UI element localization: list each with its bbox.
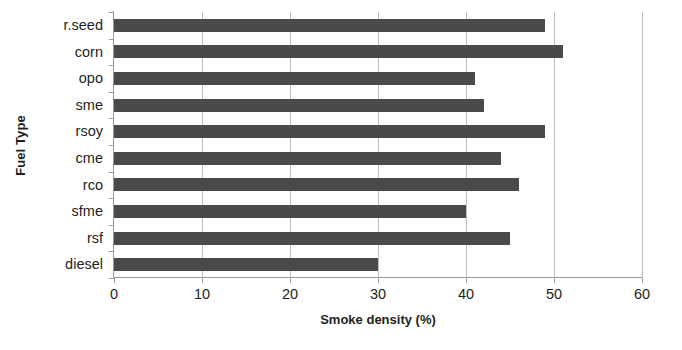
x-axis-tick: [290, 278, 291, 283]
x-axis-tick: [642, 278, 643, 283]
x-tick-label: 10: [194, 286, 210, 302]
bar: [114, 45, 563, 58]
bar: [114, 125, 545, 138]
y-axis-tick: [109, 118, 114, 119]
y-axis-ticks: [109, 12, 114, 278]
x-axis-ticks: [114, 278, 642, 283]
bar-row: [114, 65, 642, 92]
bar-series: [114, 12, 642, 278]
y-tick-label: opo: [30, 71, 108, 86]
bar: [114, 178, 519, 191]
plot-area: [114, 12, 642, 278]
bar: [114, 232, 510, 245]
y-tick-label: diesel: [30, 257, 108, 272]
bar-row: [114, 225, 642, 252]
bar: [114, 19, 545, 32]
y-axis-tick: [109, 39, 114, 40]
y-tick-label: r.seed: [30, 18, 108, 33]
bar: [114, 152, 501, 165]
y-axis-title-text: Fuel Type: [13, 115, 28, 176]
x-axis-title: Smoke density (%): [114, 312, 642, 327]
x-axis-tick: [554, 278, 555, 283]
y-axis-tick: [109, 198, 114, 199]
bar-chart: Fuel Type r.seedcornoposmersoycmercosfme…: [0, 0, 682, 350]
x-tick-label: 50: [546, 286, 562, 302]
x-tick-labels: 0102030405060: [114, 286, 642, 308]
bar-row: [114, 172, 642, 199]
x-axis-tick: [114, 278, 115, 283]
bar-row: [114, 251, 642, 278]
y-tick-label: sme: [30, 98, 108, 113]
bar-row: [114, 145, 642, 172]
y-axis-tick: [109, 225, 114, 226]
x-tick-label: 20: [282, 286, 298, 302]
bar: [114, 258, 378, 271]
y-axis-tick: [109, 12, 114, 13]
gridline: [642, 12, 643, 278]
y-axis-tick: [109, 172, 114, 173]
y-tick-label: cme: [30, 151, 108, 166]
bar-row: [114, 118, 642, 145]
bar: [114, 72, 475, 85]
x-axis-tick: [466, 278, 467, 283]
x-tick-label: 0: [110, 286, 118, 302]
x-tick-label: 40: [458, 286, 474, 302]
y-tick-label: sfme: [30, 204, 108, 219]
bar: [114, 205, 466, 218]
x-axis-tick: [202, 278, 203, 283]
y-axis-tick: [109, 251, 114, 252]
y-tick-label: rsoy: [30, 124, 108, 139]
bar-row: [114, 39, 642, 66]
y-tick-label: rsf: [30, 231, 108, 246]
bar-row: [114, 92, 642, 119]
x-axis-tick: [378, 278, 379, 283]
bar-row: [114, 198, 642, 225]
bar-row: [114, 12, 642, 39]
bar: [114, 99, 484, 112]
x-tick-label: 30: [370, 286, 386, 302]
y-axis-tick: [109, 145, 114, 146]
y-axis-tick: [109, 92, 114, 93]
x-axis-title-text: Smoke density (%): [320, 312, 436, 327]
x-tick-label: 60: [634, 286, 650, 302]
y-tick-labels: r.seedcornoposmersoycmercosfmersfdiesel: [30, 12, 108, 278]
y-tick-label: rco: [30, 178, 108, 193]
y-tick-label: corn: [30, 45, 108, 60]
y-axis-tick: [109, 65, 114, 66]
